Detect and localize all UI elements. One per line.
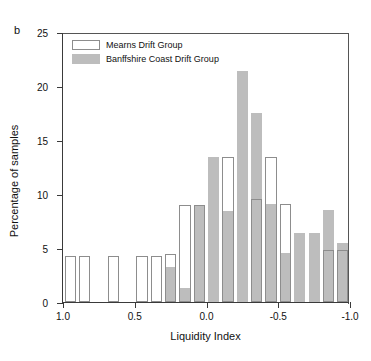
y-axis-label-text: Percentage of samples (8, 124, 20, 237)
bar-mearns (251, 199, 262, 302)
bar-mearns (151, 256, 162, 302)
y-tick: 20 (57, 87, 63, 88)
y-tick-label: 10 (37, 190, 48, 201)
legend-item-banffshire: Banffshire Coast Drift Group (72, 53, 219, 64)
bar-mearns (265, 157, 276, 302)
y-tick: 25 (57, 33, 63, 34)
x-tick (135, 302, 136, 308)
y-tick-label: 5 (42, 244, 48, 255)
y-tick: 15 (57, 141, 63, 142)
bar-mearns (165, 254, 176, 302)
bar-group (63, 33, 349, 302)
bar-banffshire (309, 233, 320, 302)
x-tick-label: 0.0 (200, 311, 214, 322)
legend-item-mearns: Mearns Drift Group (72, 39, 219, 50)
bar-mearns (222, 157, 233, 302)
y-tick-label: 25 (37, 28, 48, 39)
x-tick-label: 0.5 (128, 311, 142, 322)
figure: b Percentage of samples 0510152025 1.00.… (0, 0, 371, 361)
legend: Mearns Drift Group Banffshire Coast Drif… (72, 39, 219, 67)
plot-area: 0510152025 1.00.50.0-0.5-1.0 (62, 33, 349, 303)
y-tick-label: 15 (37, 136, 48, 147)
panel-label: b (14, 24, 20, 36)
bar-banffshire (237, 71, 248, 302)
bar-mearns (136, 256, 147, 302)
y-tick-label: 20 (37, 82, 48, 93)
x-tick (278, 302, 279, 308)
bar-mearns (179, 205, 190, 302)
x-axis-label: Liquidity Index (62, 330, 349, 342)
x-tick (207, 302, 208, 308)
x-tick-label: -1.0 (341, 311, 358, 322)
y-tick: 5 (57, 249, 63, 250)
x-tick (350, 302, 351, 308)
bar-mearns (79, 256, 90, 302)
x-tick (63, 302, 64, 308)
bar-mearns (108, 256, 119, 302)
bar-mearns (280, 204, 291, 302)
x-tick-label: 1.0 (56, 311, 70, 322)
y-tick: 10 (57, 195, 63, 196)
x-tick-label: -0.5 (270, 311, 287, 322)
bar-banffshire (294, 233, 305, 302)
legend-swatch-mearns (72, 40, 100, 50)
bar-mearns (323, 250, 334, 302)
legend-swatch-banffshire (72, 54, 100, 64)
bar-banffshire (208, 157, 219, 302)
bar-mearns (337, 250, 348, 302)
bar-mearns (194, 205, 205, 302)
legend-label-mearns: Mearns Drift Group (106, 40, 183, 50)
y-tick-label: 0 (42, 298, 48, 309)
bar-mearns (65, 256, 76, 302)
legend-label-banffshire: Banffshire Coast Drift Group (106, 54, 219, 64)
